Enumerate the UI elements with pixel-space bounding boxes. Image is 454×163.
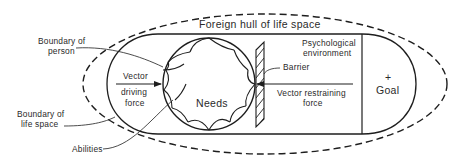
boundary-person-label-2: person <box>48 46 75 56</box>
barrier-hatching <box>256 48 264 128</box>
boundary-person-label-1: Boundary of <box>38 36 86 46</box>
vector-restraining-label-1: Vector restraining <box>277 88 346 98</box>
needs-inner-circle <box>172 47 246 121</box>
vector-restraining-label-2: force <box>303 98 323 108</box>
leader-barrier <box>264 68 280 74</box>
leader-boundary-life <box>64 117 115 126</box>
boundary-life-label-1: Boundary of <box>17 109 65 119</box>
foreign-hull-label: Foreign hull of life space <box>199 18 321 30</box>
goal-plus-sign: + <box>385 71 391 83</box>
needs-label: Needs <box>196 97 228 109</box>
vector-driving-label-2: driving <box>121 87 147 97</box>
psych-env-label-2: environment <box>303 48 352 58</box>
psych-env-label-1: Psychological <box>302 38 356 48</box>
goal-label: Goal <box>376 84 399 96</box>
life-space-diagram: Foreign hull of life space Boundary of p… <box>0 0 454 163</box>
vector-driving-label-1: Vector <box>123 71 148 81</box>
person-boundary-circle <box>163 38 255 130</box>
abilities-label: Abilities <box>72 144 103 154</box>
vector-driving-label-3: force <box>125 98 145 108</box>
boundary-life-label-2: life space <box>21 119 59 129</box>
barrier-label: Barrier <box>283 62 310 72</box>
